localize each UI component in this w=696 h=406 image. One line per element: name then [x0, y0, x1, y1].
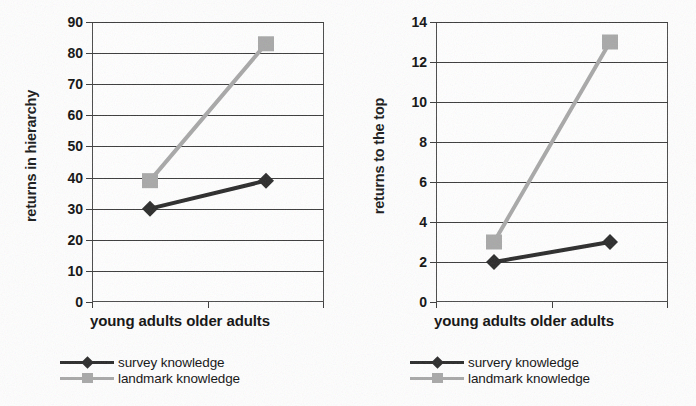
x-axis-tick-mark	[552, 302, 553, 308]
y-axis-tick-label: 30	[67, 201, 83, 217]
legend-key	[60, 355, 114, 369]
y-axis-tick-label: 0	[419, 294, 427, 310]
series-layer	[92, 22, 324, 302]
legend-key	[410, 371, 464, 385]
y-axis-tick-label: 80	[67, 45, 83, 61]
data-point-marker	[258, 173, 274, 189]
x-axis-label: young adults older adults	[6, 312, 354, 329]
legend-label: survey knowledge	[118, 355, 224, 370]
legend-diamond-marker-icon	[81, 356, 94, 369]
y-axis-tick-label: 10	[67, 263, 83, 279]
y-axis-tick-label: 50	[67, 138, 83, 154]
series-layer	[436, 22, 668, 302]
legend-item: landmark knowledge	[410, 370, 590, 386]
legend-square-marker-icon	[432, 373, 443, 383]
plot-wrap: 0102030405060708090	[92, 22, 324, 302]
series-line	[150, 181, 266, 209]
y-axis-tick-label: 6	[419, 174, 427, 190]
y-axis-tick-label: 70	[67, 76, 83, 92]
y-axis-tick-label: 40	[67, 170, 83, 186]
plot-wrap: 02468101214	[436, 22, 668, 302]
x-axis-tick-mark	[208, 302, 209, 308]
plot-region: returns in hierarchy 0102030405060708090	[0, 0, 348, 345]
plot-region: returns to the top 02468101214	[348, 0, 696, 345]
y-axis-tick-label: 12	[411, 54, 427, 70]
figure-page: returns in hierarchy 0102030405060708090…	[0, 0, 696, 406]
data-point-marker	[602, 35, 618, 50]
legend-item: landmark knowledge	[60, 370, 240, 386]
y-axis-tick-label: 0	[75, 294, 83, 310]
y-axis-tick-label: 90	[67, 14, 83, 30]
legend: survey knowledgelandmark knowledge	[60, 354, 240, 386]
data-point-marker	[142, 201, 158, 217]
data-point-marker	[486, 235, 502, 250]
x-axis-tick-mark	[323, 302, 324, 308]
y-axis-title: returns in hierarchy	[23, 41, 39, 271]
data-point-marker	[142, 173, 158, 188]
y-axis-tick-label: 8	[419, 134, 427, 150]
x-axis-tick-mark	[667, 302, 668, 308]
data-point-marker	[486, 254, 502, 270]
x-axis-tick-mark	[92, 302, 93, 308]
series-line	[494, 242, 610, 262]
y-axis-title: returns to the top	[371, 41, 387, 271]
x-axis-tick-mark	[436, 302, 437, 308]
y-axis-tick-label: 10	[411, 94, 427, 110]
y-axis-tick-label: 14	[411, 14, 427, 30]
series-line	[494, 42, 610, 242]
legend: survery knowledgelandmark knowledge	[410, 354, 590, 386]
legend-item: survey knowledge	[60, 354, 240, 370]
y-axis-tick-label: 2	[419, 254, 427, 270]
y-axis-tick-label: 60	[67, 107, 83, 123]
legend-label: landmark knowledge	[468, 371, 590, 386]
y-axis-tick-label: 4	[419, 214, 427, 230]
legend-key	[60, 371, 114, 385]
legend-label: landmark knowledge	[118, 371, 240, 386]
chart-returns-in-hierarchy: returns in hierarchy 0102030405060708090…	[0, 0, 348, 406]
data-point-marker	[258, 36, 274, 51]
series-line	[150, 44, 266, 181]
legend-key	[410, 355, 464, 369]
x-axis-label: young adults older adults	[350, 312, 696, 329]
chart-returns-to-the-top: returns to the top 02468101214 young adu…	[348, 0, 696, 406]
legend-label: survery knowledge	[468, 355, 579, 370]
data-point-marker	[602, 234, 618, 250]
legend-diamond-marker-icon	[431, 356, 444, 369]
legend-square-marker-icon	[82, 373, 93, 383]
legend-item: survery knowledge	[410, 354, 590, 370]
y-axis-tick-label: 20	[67, 232, 83, 248]
